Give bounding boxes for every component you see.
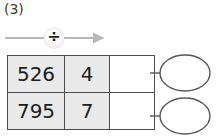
worksheet-item: (3) ÷ 526 4 795 7	[0, 0, 216, 139]
table-row: 795 7	[8, 93, 155, 130]
cell-answer-input[interactable]	[110, 93, 155, 130]
cell-divisor: 4	[65, 56, 110, 93]
cell-dividend: 795	[8, 93, 65, 130]
cell-dividend: 526	[8, 56, 65, 93]
cell-answer-input[interactable]	[110, 56, 155, 93]
operation-arrow: ÷	[5, 28, 105, 48]
table-row: 526 4	[8, 56, 155, 93]
cell-divisor: 7	[65, 93, 110, 130]
remainder-bubbles	[150, 50, 216, 139]
division-table: 526 4 795 7	[7, 55, 155, 130]
divide-icon: ÷	[44, 28, 64, 48]
divide-symbol: ÷	[47, 29, 60, 45]
item-number-label: (3)	[4, 0, 24, 18]
